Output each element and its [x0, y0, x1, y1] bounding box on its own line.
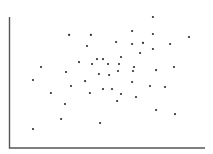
data-point: [133, 66, 135, 68]
axes-frame: [10, 17, 206, 148]
data-point: [90, 34, 92, 36]
data-point: [102, 58, 104, 60]
data-point: [70, 85, 72, 87]
data-point: [65, 71, 67, 73]
data-points: [32, 16, 190, 130]
scatter-chart: [0, 0, 213, 154]
data-point: [139, 52, 141, 54]
data-point: [60, 118, 62, 120]
data-point: [188, 36, 190, 38]
data-point: [32, 79, 34, 81]
data-point: [102, 88, 104, 90]
data-point: [173, 66, 175, 68]
data-point: [131, 43, 133, 45]
data-point: [174, 113, 176, 115]
data-point: [169, 43, 171, 45]
data-point: [116, 100, 118, 102]
data-point: [120, 93, 122, 95]
data-point: [155, 109, 157, 111]
data-point: [132, 70, 134, 72]
data-point: [115, 41, 117, 43]
data-point: [89, 92, 91, 94]
data-point: [86, 45, 88, 47]
data-point: [131, 81, 133, 83]
data-point: [152, 16, 154, 18]
data-point: [68, 34, 70, 36]
data-point: [111, 88, 113, 90]
data-point: [64, 103, 66, 105]
data-point: [152, 48, 154, 50]
data-point: [120, 56, 122, 58]
data-point: [149, 85, 151, 87]
data-point: [108, 74, 110, 76]
data-point: [84, 80, 86, 82]
data-point: [107, 63, 109, 65]
data-point: [152, 33, 154, 35]
data-point: [98, 73, 100, 75]
data-point: [155, 69, 157, 71]
data-point: [142, 42, 144, 44]
data-point: [50, 92, 52, 94]
data-point: [91, 63, 93, 65]
data-point: [40, 66, 42, 68]
data-point: [118, 63, 120, 65]
data-point: [32, 128, 34, 130]
data-point: [78, 61, 80, 63]
data-point: [131, 30, 133, 32]
data-point: [96, 58, 98, 60]
data-point: [164, 86, 166, 88]
data-point: [117, 70, 119, 72]
data-point: [135, 96, 137, 98]
data-point: [99, 122, 101, 124]
